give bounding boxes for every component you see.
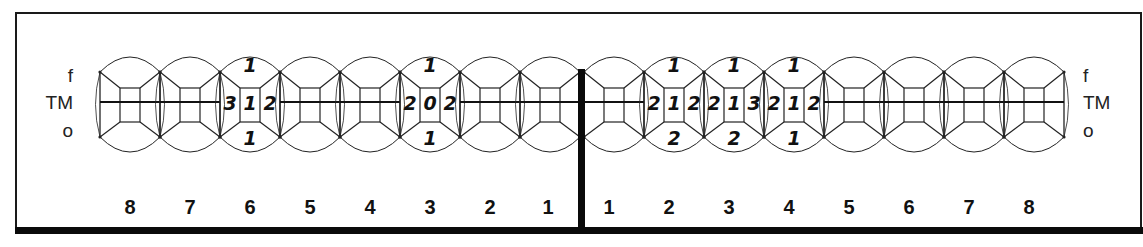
tooth-right-1 [580,57,649,152]
surface-label-tm-left: TM [46,93,73,113]
surface-label-tm-right: TM [1083,93,1110,113]
annotation-right3-left: 2 [704,93,724,113]
annotation-left6-center: 1 [240,93,260,113]
annotation-left6-top: 1 [240,55,260,75]
dental-chart: f TM o f TM o 8 7 6 5 4 3 2 1 1 2 3 4 5 … [0,0,1143,247]
tooth-left-8 [96,57,165,152]
annotation-right3-right: 3 [744,93,764,113]
tooth-left-4 [336,57,405,152]
annotation-right2-top: 1 [664,55,684,75]
annotation-right4-left: 2 [764,93,784,113]
tooth-number-left-2: 2 [475,196,505,219]
tooth-right-5 [820,57,889,152]
annotation-left3-left: 2 [400,93,420,113]
surface-label-f-left: f [68,66,73,86]
tooth-number-right-1: 1 [594,196,624,219]
tooth-number-right-2: 2 [654,196,684,219]
tooth-left-5 [276,57,345,152]
annotation-left3-top: 1 [420,55,440,75]
annotation-right4-top: 1 [784,55,804,75]
tooth-number-right-7: 7 [954,196,984,219]
tooth-left-7 [156,57,225,152]
annotation-right4-bottom: 1 [784,128,804,148]
annotation-left6-right: 2 [260,93,280,113]
tooth-left-2 [456,57,525,152]
surface-label-o-left: o [62,121,73,141]
tooth-number-left-7: 7 [175,196,205,219]
tooth-number-left-6: 6 [235,196,265,219]
annotation-right3-center: 1 [724,93,744,113]
annotation-left3-right: 2 [440,93,460,113]
annotation-right3-top: 1 [724,55,744,75]
surface-label-f-right: f [1083,66,1088,86]
annotation-right2-bottom: 2 [664,128,684,148]
tooth-number-left-3: 3 [415,196,445,219]
annotation-right4-center: 1 [784,93,804,113]
tooth-right-6 [880,57,949,152]
tooth-right-7 [940,57,1009,152]
tooth-number-left-1: 1 [533,196,563,219]
tooth-left-1 [516,57,585,152]
annotation-right2-left: 2 [644,93,664,113]
annotation-left3-center: 0 [420,93,440,113]
tooth-number-right-6: 6 [894,196,924,219]
tooth-number-right-3: 3 [714,196,744,219]
tooth-number-right-4: 4 [774,196,804,219]
tooth-number-left-8: 8 [115,196,145,219]
tooth-right-8 [1000,57,1069,152]
annotation-right2-right: 2 [684,93,704,113]
annotation-left3-bottom: 1 [420,128,440,148]
annotation-left6-left: 3 [220,93,240,113]
tooth-number-left-5: 5 [295,196,325,219]
annotation-right4-right: 2 [804,93,824,113]
annotation-left6-bottom: 1 [240,128,260,148]
midline-divider [578,69,585,231]
surface-label-o-right: o [1083,121,1094,141]
tooth-number-left-4: 4 [355,196,385,219]
tooth-number-right-5: 5 [834,196,864,219]
annotation-right2-center: 1 [664,93,684,113]
tooth-number-right-8: 8 [1014,196,1044,219]
annotation-right3-bottom: 2 [724,128,744,148]
